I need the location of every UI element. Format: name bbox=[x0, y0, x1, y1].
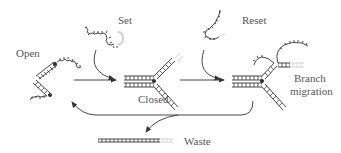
arrow-closed-to-branch bbox=[180, 50, 224, 80]
label-waste: Waste bbox=[184, 135, 211, 147]
reset-strand bbox=[203, 10, 225, 40]
label-migration: migration bbox=[290, 85, 333, 97]
label-reset: Reset bbox=[242, 14, 266, 26]
return-arrow bbox=[72, 101, 253, 132]
label-open: Open bbox=[16, 47, 40, 59]
label-set: Set bbox=[118, 14, 132, 26]
open-structure bbox=[30, 57, 81, 100]
arrow-open-to-closed bbox=[74, 50, 116, 80]
diagram-canvas bbox=[0, 0, 341, 153]
set-strand bbox=[85, 27, 123, 48]
dna-displacement-diagram: Open Set Reset Closed Branch migration W… bbox=[0, 0, 341, 153]
waste-duplex bbox=[98, 139, 174, 142]
label-branch: Branch bbox=[294, 72, 326, 84]
label-closed: Closed bbox=[138, 93, 169, 105]
